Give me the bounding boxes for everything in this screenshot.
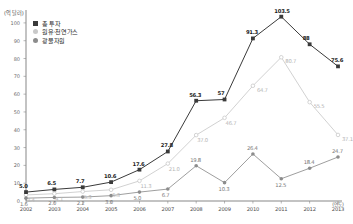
data-point-label: 37.0 [197, 137, 208, 143]
data-point-label: 80.7 [285, 58, 296, 64]
data-point-label: 55.5 [314, 103, 325, 109]
x-axis-tick-label: 2005 [96, 206, 126, 212]
y-axis-tick-label: 30 [2, 145, 20, 151]
data-point-label: 6.7 [162, 192, 170, 198]
data-point-label: 37.1 [342, 136, 353, 142]
data-point-label: 5.3 [84, 194, 92, 200]
data-point-label: 5.0 [19, 183, 28, 189]
y-axis-tick-label: 10 [2, 180, 20, 186]
data-point-label: 27.8 [161, 142, 173, 148]
data-point-label: 18.4 [304, 159, 315, 165]
x-axis-tick-label: 2009 [210, 206, 240, 212]
x-axis-tick-label: 2007 [153, 206, 183, 212]
y-axis-tick-label: 100 [2, 20, 20, 26]
data-point-label: 5.0 [133, 195, 141, 201]
y-axis-tick-label: 90 [2, 38, 20, 44]
data-point-label: 7.7 [76, 178, 85, 184]
data-point-label: 6.3 [112, 192, 120, 198]
data-point-label: 10.6 [104, 173, 116, 179]
data-point-label: 10.3 [219, 186, 230, 192]
data-point-label: 1.6 [20, 201, 28, 207]
y-axis-tick-label: 60 [2, 91, 20, 97]
data-point-label: 46.7 [226, 120, 237, 126]
data-point-label: 75.6 [331, 57, 343, 63]
data-point-label: 2.0 [48, 200, 56, 206]
data-point-label: 12.5 [275, 182, 286, 188]
data-point-label: 26.4 [247, 145, 258, 151]
data-point-label: 91.3 [246, 29, 258, 35]
data-point-label: 103.5 [274, 8, 290, 14]
x-axis-tick-label: 2004 [68, 206, 98, 212]
data-point-label: 57 [218, 90, 225, 96]
data-point-label: 21.0 [169, 166, 180, 172]
data-point-label: 3.0 [105, 199, 113, 205]
data-point-label: 3.4 [27, 197, 35, 203]
x-axis-tick-label: 2008 [181, 206, 211, 212]
y-axis-tick-label: 70 [2, 73, 20, 79]
x-axis-tick-label: 2006 [124, 206, 154, 212]
y-axis-tick-label: 20 [2, 162, 20, 168]
x-axis-tick-label: 2012 [295, 206, 325, 212]
x-axis-unit-label: (연도) [332, 200, 344, 207]
data-point-label: 64.7 [257, 87, 268, 93]
y-axis-tick-label: 0 [2, 198, 20, 204]
y-axis-tick-label: 50 [2, 109, 20, 115]
y-axis-tick-label: 80 [2, 56, 20, 62]
data-point-label: 19.8 [190, 157, 201, 163]
data-point-label: 2.2 [77, 200, 85, 206]
x-axis-tick-label: 2011 [266, 206, 296, 212]
x-axis-tick-label: 2010 [238, 206, 268, 212]
data-point-label: 17.6 [132, 161, 144, 167]
data-point-label: 88 [303, 35, 310, 41]
data-point-label: 56.3 [189, 92, 201, 98]
data-point-label: 6.5 [47, 180, 56, 186]
data-point-label: 4.1 [55, 196, 63, 202]
data-point-label: 24.7 [332, 148, 343, 154]
data-point-label: 11.3 [140, 183, 151, 189]
y-axis-tick-label: 40 [2, 127, 20, 133]
x-axis-tick-label: 2003 [39, 206, 69, 212]
